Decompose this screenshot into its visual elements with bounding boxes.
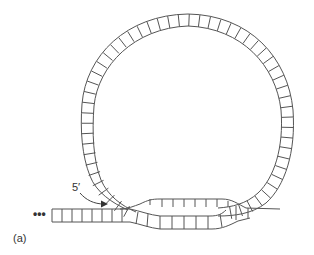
loop-rung [276, 85, 287, 89]
loop-rung [128, 31, 134, 41]
loop-rung [208, 17, 211, 29]
loop-rung [82, 133, 94, 134]
loop-rung [157, 19, 160, 31]
loop-rung [281, 137, 293, 138]
loop-rung [275, 166, 286, 170]
loop-rung [278, 156, 290, 159]
loop-rung [97, 62, 107, 69]
loop-rung [235, 28, 241, 38]
stem-duplex [52, 209, 130, 222]
loop-rung [267, 183, 277, 190]
loop-rung [250, 41, 258, 50]
loop-rung [84, 153, 96, 155]
loop-rung [226, 23, 231, 34]
loop-rung [178, 15, 179, 27]
loop-rung [82, 102, 94, 103]
loop-rung [262, 190, 271, 198]
loop-rung [87, 81, 98, 85]
continuation-dots: ••• [33, 208, 46, 220]
loop-rung [119, 38, 126, 47]
loop-rung [243, 34, 250, 44]
loop-rung [263, 57, 273, 64]
loop-rung [103, 53, 112, 61]
loop-strand [81, 14, 293, 216]
arrow-head-icon [101, 201, 108, 208]
loop-rung [137, 26, 142, 37]
five-prime-label: 5′ [72, 182, 80, 193]
loop-rung [273, 75, 284, 80]
loop-rung [217, 19, 221, 30]
loop-rungs [81, 14, 293, 219]
loop-rung [280, 147, 292, 149]
loop-rung [82, 143, 94, 144]
loop-rung [279, 96, 291, 99]
loop-rung [91, 71, 102, 76]
dna-loop-diagram [0, 0, 314, 255]
loop-rung [269, 66, 279, 72]
loop-rung [281, 106, 293, 108]
loop-rung [84, 91, 96, 94]
loop-rung [257, 48, 266, 56]
loop-rung [82, 113, 94, 114]
loop-rung [111, 45, 119, 54]
loop-rung [147, 22, 151, 33]
loop-rung [272, 174, 283, 179]
loop-rung [168, 16, 170, 28]
loop-rung [86, 162, 98, 165]
loop-rung [230, 207, 232, 219]
loop-rung [189, 14, 190, 26]
loop-rung [255, 196, 262, 206]
panel-label: (a) [13, 233, 26, 244]
five-prime-arrow [80, 193, 104, 204]
loop-rung [198, 15, 200, 27]
displacement-region [120, 199, 280, 229]
